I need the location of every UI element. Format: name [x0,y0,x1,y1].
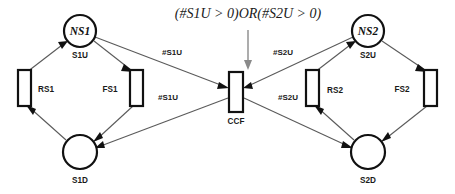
transition-CCF[interactable] [229,72,243,112]
arc-rs1-ns1 [27,41,68,72]
arc-ns1-fs1 [94,41,134,72]
place-S2D[interactable] [351,135,385,169]
guard-expression: (#S1U > 0)OR(#S2U > 0) [175,6,322,22]
arc-s1d-rs1 [26,105,66,140]
transition-label-rs1: RS1 [38,85,54,94]
arc-ccf-s2d: #S2U [244,93,353,148]
transition-label-rs2: RS2 [327,86,343,95]
petri-net-diagram: #S1U #S1U [0,0,455,194]
place-caption-s2u: S2U [360,51,376,60]
arc-label-ccf-s2d: #S2U [278,93,298,102]
arc-ccf-s1d: #S1U [95,93,228,148]
guard-arrow [244,30,252,70]
transition-FS2[interactable] [424,70,437,106]
petri-net-canvas: #S1U #S1U [0,0,455,194]
arc-label-ns2-ccf: #S2U [273,48,293,57]
transition-label-fs2: FS2 [394,85,409,94]
place-caption-s2d: S2D [360,176,376,185]
arc-fs2-s2d [381,106,427,142]
transition-label-fs1: FS1 [102,85,117,94]
place-inner-label-ns2: NS2 [357,25,379,37]
arc-ns1-ccf: #S1U [95,37,229,89]
place-inner-label-ns1: NS1 [69,25,90,37]
arc-ns2-ccf: #S2U [243,37,353,89]
arc-ns2-fs2 [382,41,428,72]
place-caption-s1u: S1U [72,51,88,60]
place-S1D[interactable] [63,135,97,169]
transition-FS1[interactable] [130,70,143,106]
arc-s2d-rs2 [314,105,354,140]
transition-RS1[interactable] [18,70,31,106]
transition-RS2[interactable] [306,70,319,106]
transition-label-ccf: CCF [228,117,245,126]
arc-label-ccf-s1d: #S1U [158,93,178,102]
place-caption-s1d: S1D [72,176,88,185]
arc-label-ns1-ccf: #S1U [162,48,182,57]
